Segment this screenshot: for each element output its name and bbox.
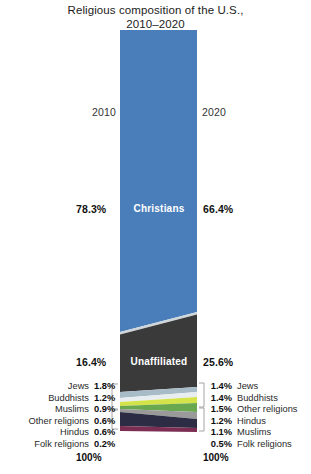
religious-composition-chart: 2010 2020 78.3% Christians 66.4% 16.4% U…	[0, 0, 311, 474]
legend-item: Buddhists 1.2%	[29, 393, 123, 405]
legend-item: 1.5% Other religions	[203, 404, 297, 416]
legend-value: 1.4%	[203, 381, 232, 393]
legend-label: Other religions	[237, 404, 297, 416]
legend-item: Folk religions 0.2%	[29, 439, 123, 451]
total-2020: 100%	[203, 452, 229, 463]
legend-value: 1.1%	[203, 427, 232, 439]
legend-label: Buddhists	[48, 393, 89, 405]
christians-left-percent: 78.3%	[76, 203, 106, 215]
legend-item: 1.4% Buddhists	[203, 393, 297, 405]
unaffiliated-band-label: Unaffiliated	[120, 356, 198, 367]
christians-right-percent: 66.4%	[203, 203, 233, 215]
legend-value: 1.4%	[203, 393, 232, 405]
legend-value: 1.5%	[203, 404, 232, 416]
legend-label: Folk religions	[34, 439, 89, 451]
total-2010: 100%	[76, 452, 102, 463]
year-label-left: 2010	[92, 106, 116, 118]
legend-value: 0.6%	[94, 416, 123, 428]
legend-value: 0.2%	[94, 439, 123, 451]
year-label-right: 2020	[202, 106, 226, 118]
legend-label: Buddhists	[237, 393, 278, 405]
legend-label: Jews	[68, 381, 89, 393]
legend-2010: Jews 1.8% Buddhists 1.2% Muslims 0.9% Ot…	[29, 381, 123, 451]
legend-item: 1.1% Muslims	[203, 427, 297, 439]
band-christians	[120, 30, 197, 332]
unaffiliated-left-percent: 16.4%	[76, 356, 106, 368]
legend-value: 1.2%	[203, 416, 232, 428]
legend-label: Muslims	[237, 427, 271, 439]
christians-band-label: Christians	[120, 203, 198, 214]
legend-item: Other religions 0.6%	[29, 416, 123, 428]
legend-item: Muslims 0.9%	[29, 404, 123, 416]
legend-2020: 1.4% Jews 1.4% Buddhists 1.5% Other reli…	[203, 381, 297, 451]
legend-item: Hindus 0.6%	[29, 427, 123, 439]
legend-item: Jews 1.8%	[29, 381, 123, 393]
legend-value: 1.2%	[94, 393, 123, 405]
legend-item: 1.2% Hindus	[203, 416, 297, 428]
legend-label: Folk religions	[237, 439, 292, 451]
unaffiliated-right-percent: 25.6%	[203, 356, 233, 368]
legend-value: 1.8%	[94, 381, 123, 393]
legend-label: Other religions	[29, 416, 89, 428]
legend-value: 0.5%	[203, 439, 232, 451]
legend-label: Hindus	[237, 416, 266, 428]
legend-item: 0.5% Folk religions	[203, 439, 297, 451]
legend-item: 1.4% Jews	[203, 381, 297, 393]
legend-value: 0.6%	[94, 427, 123, 439]
legend-value: 0.9%	[94, 404, 123, 416]
legend-label: Muslims	[55, 404, 89, 416]
legend-label: Jews	[237, 381, 258, 393]
legend-label: Hindus	[60, 427, 89, 439]
